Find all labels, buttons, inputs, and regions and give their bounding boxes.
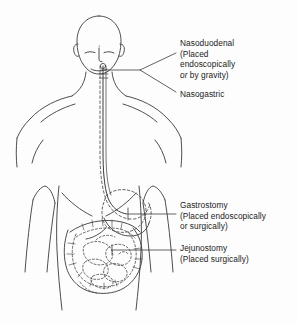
nose-dot <box>99 45 100 46</box>
elbow-left-outline <box>33 186 55 203</box>
eyebrow-right-outline <box>104 52 114 53</box>
colon-inner-outline <box>72 232 136 287</box>
leader-line-nasogastric <box>140 70 176 92</box>
clavicle-left-outline <box>41 104 75 122</box>
label-nasoduodenal-title: Nasoduodenal <box>180 38 235 49</box>
label-nasoduodenal-detail-3-text: by gravity) <box>187 70 228 80</box>
armpit-right-outline <box>155 140 166 163</box>
neck-left-outline <box>72 72 86 96</box>
label-nasogastric: Nasogastric <box>180 89 224 100</box>
label-gastrostomy-detail-2: or surgically) <box>180 221 266 232</box>
neck-right-outline <box>112 72 126 96</box>
label-gastrostomy: Gastrostomy (Placed endoscopically or su… <box>180 200 266 232</box>
colon-outline <box>64 228 142 293</box>
transverse-colon-outline <box>70 220 140 232</box>
forearm-left-outline <box>25 200 33 272</box>
label-jejunostomy-detail-1: (Placed surgically) <box>180 254 249 265</box>
leader-line-nasoduodenal <box>108 53 176 70</box>
eyebrow-left-outline <box>85 52 95 53</box>
rib-margin-left-outline <box>62 193 92 216</box>
arm-right-outline <box>181 138 182 167</box>
label-nasoduodenal-detail-2: endoscopically <box>180 59 235 70</box>
label-gastrostomy-detail-1: (Placed endoscopically <box>180 211 266 222</box>
label-nasoduodenal-detail-1: (Placed <box>180 49 235 60</box>
shoulder-left-outline <box>17 96 72 138</box>
transverse-colon-inner <box>76 228 135 238</box>
ear-right-outline <box>119 44 124 56</box>
label-jejunostomy-title: Jejunostomy <box>180 243 249 254</box>
forearm-left-inner-outline <box>47 203 55 272</box>
clavicle-right-outline <box>123 104 157 122</box>
esophagus-tube-wall <box>106 66 111 195</box>
label-jejunostomy: Jejunostomy (Placed surgically) <box>180 243 249 264</box>
forearm-right-inner-outline <box>143 203 151 272</box>
esophagus-tube-solid <box>103 66 127 214</box>
shoulder-right-outline <box>126 96 181 138</box>
forearm-right-outline <box>165 200 173 272</box>
nose-outline <box>99 48 102 62</box>
arm-left-outline <box>16 138 17 167</box>
head-outline <box>77 16 121 74</box>
label-nasoduodenal-detail-3: or by gravity) <box>180 70 235 81</box>
armpit-left-outline <box>32 140 43 163</box>
anatomy-illustration <box>0 0 298 323</box>
enteral-feeding-diagram: Nasoduodenal (Placed endoscopically or b… <box>0 0 298 323</box>
torso-left-outline <box>57 186 62 310</box>
label-nasogastric-title: Nasogastric <box>180 89 224 100</box>
stomach-antrum-outline <box>86 228 106 239</box>
label-nasoduodenal: Nasoduodenal (Placed endoscopically or b… <box>180 38 235 80</box>
elbow-right-outline <box>143 186 165 203</box>
ear-left-outline <box>74 44 79 56</box>
duodenum-outline <box>148 202 151 223</box>
label-gastrostomy-title: Gastrostomy <box>180 200 266 211</box>
